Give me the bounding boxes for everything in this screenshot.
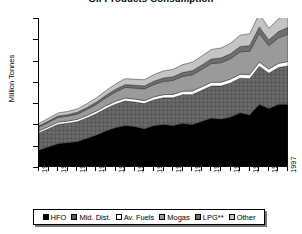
x-tick-mark: [163, 167, 164, 171]
plot-area: [38, 18, 287, 167]
x-tick-mark: [220, 167, 221, 171]
legend-item[interactable]: HFO: [43, 213, 67, 222]
legend-swatch-icon: [43, 214, 49, 220]
x-tick-mark: [38, 167, 39, 171]
x-tick-mark: [134, 167, 135, 171]
x-tick-mark: [115, 167, 116, 171]
x-tick-mark: [153, 167, 154, 171]
legend-item[interactable]: LPG**: [195, 213, 224, 222]
x-tick-mark: [124, 167, 125, 171]
legend-item[interactable]: Other: [229, 213, 256, 222]
y-axis-title: Million Tonnes: [7, 42, 16, 116]
legend-label: Mogas: [167, 213, 190, 222]
x-tick-mark: [249, 167, 250, 171]
x-tick-mark: [230, 167, 231, 171]
legend-swatch-icon: [159, 214, 165, 220]
x-tick-mark: [239, 167, 240, 171]
x-tick-mark: [105, 167, 106, 171]
oil-products-consumption-chart: Oil Products Consumption Million Tonnes …: [0, 0, 302, 234]
legend-label: Av. Fuels: [124, 213, 155, 222]
legend-item[interactable]: Mogas: [159, 213, 190, 222]
x-tick-mark: [201, 167, 202, 171]
legend-label: Other: [237, 213, 256, 222]
legend-label: LPG**: [203, 213, 224, 222]
legend-swatch-icon: [116, 214, 122, 220]
x-tick-mark: [57, 167, 58, 171]
legend-swatch-icon: [229, 214, 235, 220]
x-tick-mark: [172, 167, 173, 171]
chart-title: Oil Products Consumption: [0, 0, 302, 4]
x-tick-mark: [268, 167, 269, 171]
chart-legend: HFOMid. Dist.Av. FuelsMogasLPG**Other: [33, 209, 265, 225]
x-tick-mark: [143, 167, 144, 171]
legend-label: HFO: [51, 213, 67, 222]
legend-item[interactable]: Av. Fuels: [116, 213, 155, 222]
legend-label: Mid. Dist.: [79, 213, 110, 222]
stacked-area-plot: [39, 18, 288, 167]
legend-item[interactable]: Mid. Dist.: [71, 213, 110, 222]
legend-swatch-icon: [71, 214, 77, 220]
x-tick-label: 1997: [290, 156, 298, 173]
x-tick-mark: [287, 167, 288, 171]
x-tick-mark: [86, 167, 87, 171]
x-tick-mark: [182, 167, 183, 171]
x-tick-mark: [277, 167, 278, 171]
x-tick-mark: [67, 167, 68, 171]
x-tick-mark: [48, 167, 49, 171]
legend-swatch-icon: [195, 214, 201, 220]
x-tick-mark: [258, 167, 259, 171]
